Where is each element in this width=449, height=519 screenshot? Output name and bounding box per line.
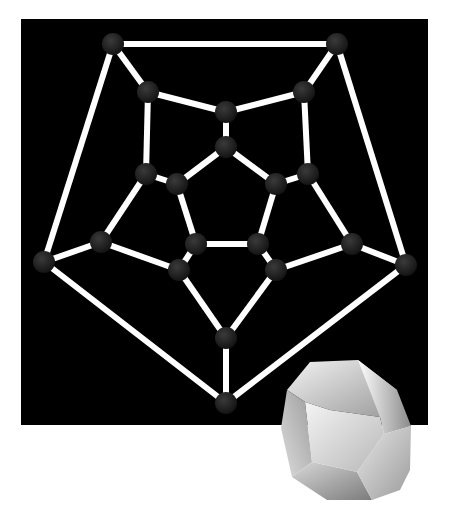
graph-node-P xyxy=(247,233,269,255)
graph-node-E xyxy=(215,392,237,414)
graph-node-F xyxy=(137,81,159,103)
graph-node-N xyxy=(90,231,112,253)
graph-edge-J-N xyxy=(101,174,146,242)
graph-node-S xyxy=(265,259,287,281)
graph-node-L xyxy=(265,173,287,195)
graph-node-K xyxy=(166,173,188,195)
graph-node-C xyxy=(33,251,55,273)
graph-node-H xyxy=(215,101,237,123)
graph-node-J xyxy=(135,163,157,185)
graph-node-A xyxy=(102,33,124,55)
graph-node-I xyxy=(215,136,237,158)
graph-edge-G-H xyxy=(226,92,304,112)
graph-edge-R-T xyxy=(179,270,226,338)
graph-edge-Q-S xyxy=(276,244,352,270)
graph-node-R xyxy=(168,259,190,281)
graph-edge-N-R xyxy=(101,242,179,270)
figure xyxy=(0,0,449,519)
graph-edge-F-J xyxy=(146,92,148,174)
graph-edge-A-C xyxy=(44,44,113,262)
graph-node-D xyxy=(395,254,417,276)
graph-edge-M-Q xyxy=(308,174,352,244)
graph-edges xyxy=(44,44,406,403)
graph-edge-F-H xyxy=(148,92,226,112)
graph-node-B xyxy=(326,33,348,55)
graph-node-M xyxy=(297,163,319,185)
graph-edge-G-M xyxy=(304,92,308,174)
dodecahedron-solid xyxy=(281,360,411,500)
graph-edge-S-T xyxy=(226,270,276,338)
graph-node-G xyxy=(293,81,315,103)
schlegel-diagram xyxy=(0,0,449,519)
graph-node-Q xyxy=(341,233,363,255)
graph-node-O xyxy=(185,233,207,255)
graph-node-T xyxy=(215,327,237,349)
graph-edge-C-E xyxy=(44,262,226,403)
